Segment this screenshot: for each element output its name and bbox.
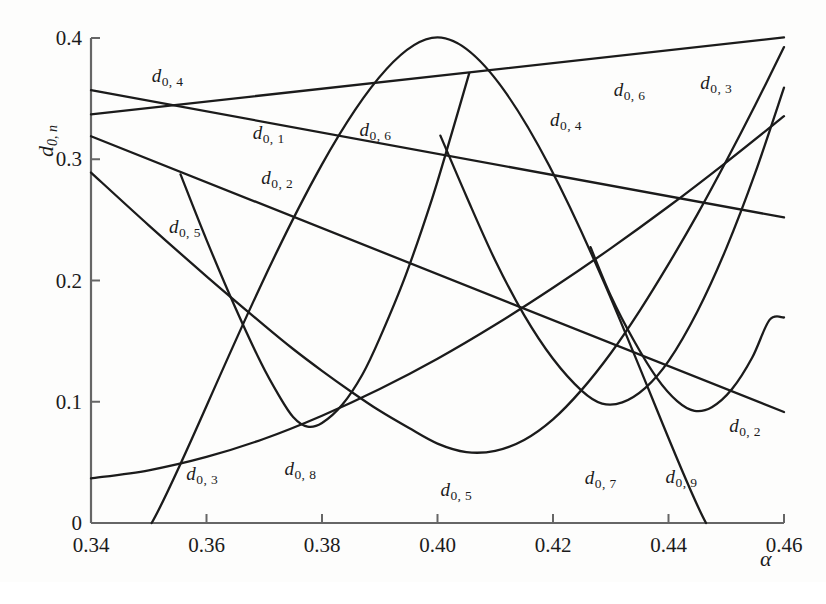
curve-d-0-1: [91, 37, 784, 114]
figure-container: d0, n α 0.340.360.380.400.420.440.4600.1…: [0, 0, 826, 604]
curve-label-subscript: 0, 8: [294, 467, 316, 482]
curve-label-base: d: [666, 466, 676, 487]
curve-label-d-0-4-1: d0, 4: [152, 66, 183, 85]
axis-lines: [91, 38, 784, 523]
curve-label-subscript: 0, 2: [739, 424, 761, 439]
curve-d-0-5: [91, 47, 784, 453]
curve-label-subscript: 0, 4: [560, 118, 582, 133]
curve-label-base: d: [169, 216, 179, 237]
y-axis-title: d0, n: [26, 96, 66, 186]
tick-marks: [91, 38, 784, 523]
x-tick-label-3: 0.40: [419, 535, 456, 556]
curve-label-base: d: [186, 463, 196, 484]
curve-label-d-0-9-1: d0, 9: [666, 467, 697, 486]
curve-label-base: d: [152, 65, 162, 86]
curve-paths: [91, 37, 784, 523]
x-tick-label-2: 0.38: [304, 535, 341, 556]
curve-label-subscript: 0, 3: [710, 81, 732, 96]
curve-label-base: d: [253, 122, 263, 143]
curve-label-d-0-5-2: d0, 5: [440, 480, 471, 499]
curve-label-d-0-8-1: d0, 8: [284, 459, 315, 478]
x-tick-label-5: 0.44: [650, 535, 687, 556]
y-tick-label-4: 0.4: [22, 28, 82, 49]
curve-label-subscript: 0, 5: [450, 488, 472, 503]
x-tick-label-6: 0.46: [766, 535, 803, 556]
x-tick-label-0: 0.34: [73, 535, 110, 556]
curve-label-base: d: [440, 479, 450, 500]
curve-label-d-0-3-1: d0, 3: [186, 464, 217, 483]
curve-label-subscript: 0, 4: [162, 74, 184, 89]
x-tick-label-1: 0.36: [188, 535, 225, 556]
y-axis-title-sub: 0, n: [45, 125, 60, 146]
y-tick-label-2: 0.2: [22, 270, 82, 291]
curve-label-subscript: 0, 2: [271, 176, 293, 191]
curve-label-subscript: 0, 7: [595, 476, 617, 491]
curve-label-subscript: 0, 6: [370, 128, 392, 143]
curve-label-d-0-7-1: d0, 7: [585, 468, 616, 487]
curve-label-base: d: [700, 72, 710, 93]
curve-label-base: d: [729, 415, 739, 436]
curve-d-0-3: [91, 116, 784, 478]
curve-label-subscript: 0, 6: [624, 88, 646, 103]
curve-label-base: d: [585, 467, 595, 488]
curve-label-base: d: [550, 109, 560, 130]
y-tick-label-1: 0.1: [22, 391, 82, 412]
curve-label-subscript: 0, 5: [179, 225, 201, 240]
curve-label-d-0-3-2: d0, 3: [700, 73, 731, 92]
curve-label-base: d: [284, 458, 294, 479]
curve-d-0-6: [152, 37, 706, 523]
curve-label-base: d: [360, 119, 370, 140]
curve-label-d-0-2-1: d0, 2: [261, 168, 292, 187]
curve-label-base: d: [614, 79, 624, 100]
curve-label-subscript: 0, 1: [263, 131, 285, 146]
curve-label-base: d: [261, 167, 271, 188]
curve-label-subscript: 0, 3: [196, 472, 218, 487]
curve-label-d-0-1-1: d0, 1: [253, 123, 284, 142]
curve-label-d-0-6-1: d0, 6: [360, 120, 391, 139]
curve-d-0-4: [91, 90, 784, 217]
y-tick-label-3: 0.3: [22, 149, 82, 170]
y-tick-label-0: 0: [22, 513, 82, 534]
curve-label-d-0-5-1: d0, 5: [169, 217, 200, 236]
curve-label-d-0-6-2: d0, 6: [614, 80, 645, 99]
curve-label-d-0-4-2: d0, 4: [550, 110, 581, 129]
x-tick-label-4: 0.42: [535, 535, 572, 556]
page-edge-fill: [0, 582, 826, 604]
curve-label-subscript: 0, 9: [676, 475, 698, 490]
curve-label-d-0-2-2: d0, 2: [729, 416, 760, 435]
